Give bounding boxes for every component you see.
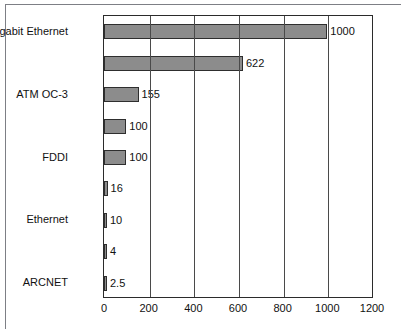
x-tick-label: 400 [184,303,202,314]
bar-row: 100 [104,150,372,165]
bar-row: 16 [104,181,372,196]
bar-row: 622 [104,56,372,71]
bar-value-label: 4 [110,246,116,257]
bar [104,119,126,134]
category-label: ARCNET [0,277,68,288]
bar-row: 100 [104,119,372,134]
x-tick-label: 1200 [360,303,384,314]
bar-value-label: 100 [129,152,147,163]
bar-row: 2.5 [104,276,372,291]
bar-value-label: 622 [246,58,264,69]
bar-value-label: 16 [111,183,123,194]
bar [104,213,107,228]
bar-value-label: 10 [110,215,122,226]
x-tick-label: 200 [139,303,157,314]
bar [104,244,107,259]
x-tick-label: 600 [229,303,247,314]
gridline [328,16,329,297]
plot-area: 1000622155100100161042.5 [103,15,373,298]
bar [104,276,107,291]
bar-rows: 1000622155100100161042.5 [104,16,372,297]
bar-row: 10 [104,213,372,228]
category-label: FDDI [0,152,68,163]
bar-chart: 1000622155100100161042.5 Gigabit Etherne… [0,0,401,329]
bar [104,56,243,71]
bar [104,24,327,39]
bar-value-label: 1000 [330,26,354,37]
bar-value-label: 100 [129,121,147,132]
bar-row: 4 [104,244,372,259]
x-tick-label: 1000 [315,303,339,314]
x-tick-label: 0 [101,303,107,314]
x-tick-label: 800 [273,303,291,314]
bar [104,87,139,102]
gridline [150,16,151,297]
gridline [284,16,285,297]
bar [104,150,126,165]
bar-value-label: 2.5 [110,278,125,289]
bar [104,181,108,196]
gridline [194,16,195,297]
gridline [239,16,240,297]
bar-row: 1000 [104,24,372,39]
category-label: Ethernet [0,214,68,225]
category-label: ATM OC-3 [0,89,68,100]
bar-value-label: 155 [142,89,160,100]
bar-row: 155 [104,87,372,102]
category-label: Gigabit Ethernet [0,26,68,37]
